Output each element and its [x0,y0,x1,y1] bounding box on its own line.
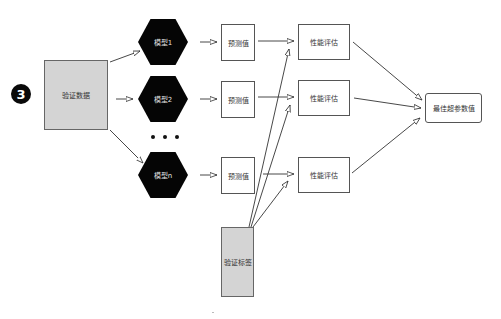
model-n-label: 模型n [154,170,172,180]
prediction-box-1: 预测值 [221,24,255,61]
prediction-box-2: 预测值 [221,81,255,118]
evaluation-label: 性能评估 [310,37,338,47]
evaluation-box-1: 性能评估 [298,24,350,60]
ellipsis-dot [175,135,179,139]
evaluation-label: 性能评估 [310,93,338,103]
validation-labels-box: 验证标签 [221,227,254,297]
evaluation-box-n: 性能评估 [298,157,350,193]
ellipsis-dot [151,135,155,139]
evaluation-label: 性能评估 [310,170,338,180]
prediction-label: 预测值 [228,95,249,105]
validation-data-box: 验证数据 [44,60,108,130]
best-hyperparameter-label: 最佳超参数值 [433,103,475,113]
best-hyperparameter-box: 最佳超参数值 [425,93,482,123]
prediction-box-n: 预测值 [221,157,255,194]
model-2-label: 模型2 [154,94,172,104]
validation-data-label: 验证数据 [62,90,90,100]
ellipsis-dot [163,135,167,139]
scan-artifact [212,312,214,313]
evaluation-box-2: 性能评估 [298,80,350,116]
prediction-label: 预测值 [228,171,249,181]
step-number-badge: 3 [11,84,31,104]
validation-labels-label: 验证标签 [224,257,252,267]
model-1-label: 模型1 [154,37,172,47]
prediction-label: 预测值 [228,38,249,48]
